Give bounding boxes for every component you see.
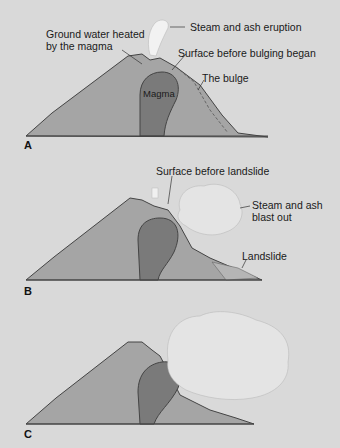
steam-plume-a (148, 20, 168, 56)
label-groundwater-line1: Ground water heated (46, 28, 145, 40)
panel-label-b: B (24, 285, 32, 297)
panel-b-illustration (26, 176, 262, 280)
label-magma: Magma (143, 88, 175, 100)
label-landslide: Landslide (242, 250, 287, 262)
label-surface-before-bulging: Surface before bulging began (178, 47, 316, 59)
small-plume-b (152, 188, 158, 198)
label-surface-before-landslide: Surface before landslide (156, 165, 269, 177)
ash-cloud-b (178, 184, 242, 235)
panel-label-a: A (24, 139, 32, 151)
label-blast-line2: blast out (252, 211, 292, 223)
volcano-diagram (0, 0, 340, 448)
label-groundwater-line2: by the magma (46, 40, 113, 52)
panel-c-illustration (26, 312, 289, 424)
label-blast-line1: Steam and ash (252, 199, 323, 211)
label-the-bulge: The bulge (202, 72, 249, 84)
label-steam-ash-eruption: Steam and ash eruption (190, 21, 302, 33)
panel-label-c: C (24, 428, 32, 440)
ash-cloud-c (167, 312, 288, 400)
